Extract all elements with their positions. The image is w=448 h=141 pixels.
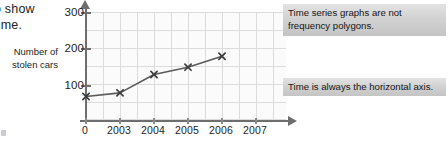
series-line xyxy=(86,56,222,96)
time-series-chart: 100 200 300 0 2003 2004 2005 2006 2007 xyxy=(52,0,290,141)
callout-horizontal-axis: Time is always the horizontal axis. xyxy=(283,78,446,96)
callout-frequency-polygons: Time series graphs are not frequency pol… xyxy=(283,4,446,36)
page-corner-artifact xyxy=(1,130,6,136)
series-markers xyxy=(83,53,225,100)
worksheet-page: o show time. Number of stolen cars xyxy=(0,0,448,141)
data-series xyxy=(52,0,290,141)
